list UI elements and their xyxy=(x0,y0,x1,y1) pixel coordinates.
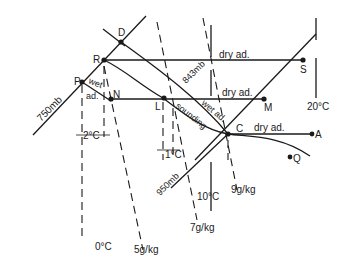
label-20c: 20°C xyxy=(307,101,329,112)
label-ad-p: ad. xyxy=(86,91,99,101)
point-m xyxy=(261,96,266,101)
label-dry-ad-mid: dry ad. xyxy=(222,87,253,98)
mixing-ratio-5 xyxy=(104,66,143,250)
label-r: R xyxy=(93,54,100,65)
label-950mb: 950mb xyxy=(154,171,181,198)
point-l xyxy=(161,95,166,100)
label-dry-ad-top: dry ad. xyxy=(219,49,250,60)
label-10c: 10°C xyxy=(197,191,219,202)
label-d: D xyxy=(118,27,125,38)
label-dry-ad-low: dry ad. xyxy=(254,122,285,133)
label-5gkg: 5g/kg xyxy=(134,244,158,255)
thermodynamic-diagram: D R P N L M S C A Q dry ad. dry ad. dry … xyxy=(0,0,342,269)
label-m: M xyxy=(264,102,272,113)
isobar-through-c-m-s xyxy=(195,34,316,160)
wet-adiabat-d-to-c xyxy=(121,42,228,134)
label-n: N xyxy=(113,89,120,100)
label-9gkg: 9g/kg xyxy=(231,184,255,195)
label-1c: 1°C xyxy=(165,149,182,160)
label-843mb: 843mb xyxy=(180,59,207,86)
point-d xyxy=(118,39,123,44)
label-wet-p: wet xyxy=(86,75,104,90)
label-p: P xyxy=(74,76,81,87)
point-q xyxy=(288,155,293,160)
point-r xyxy=(101,57,106,62)
label-0c: 0°C xyxy=(95,241,112,252)
label-2c: 2°C xyxy=(83,130,100,141)
point-a xyxy=(310,132,315,137)
isobar-950mb xyxy=(171,134,228,188)
label-a: A xyxy=(315,129,322,140)
label-c: C xyxy=(236,123,243,134)
label-s: S xyxy=(300,64,307,75)
label-l: L xyxy=(155,101,161,112)
label-q: Q xyxy=(293,153,301,164)
point-s xyxy=(300,57,305,62)
label-750mb: 750mb xyxy=(35,94,65,124)
point-c xyxy=(225,131,230,136)
label-7gkg: 7g/kg xyxy=(190,222,214,233)
